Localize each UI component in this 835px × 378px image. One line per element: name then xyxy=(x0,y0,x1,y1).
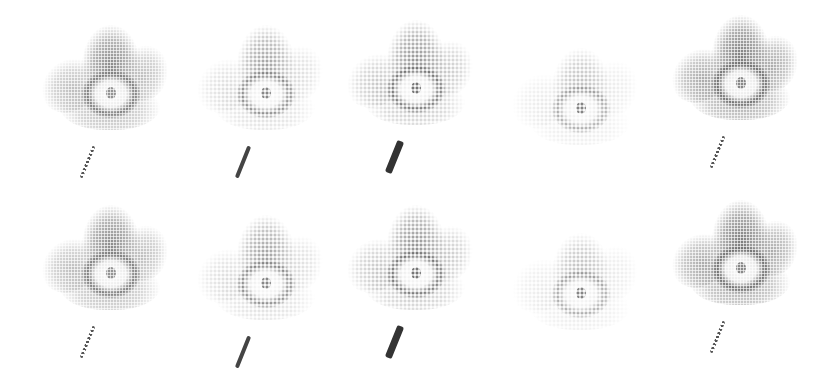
flower-pistil xyxy=(736,262,746,274)
flower-render xyxy=(510,225,670,378)
flower-render xyxy=(670,200,830,370)
flower-point-cloud xyxy=(195,215,355,345)
flower-point-cloud xyxy=(345,20,505,150)
flower-point-cloud xyxy=(670,15,830,145)
flower-pistil xyxy=(736,77,746,89)
flower-pistil xyxy=(106,87,116,99)
flower-pistil xyxy=(411,82,421,94)
flower-point-cloud xyxy=(510,40,670,170)
flower-pistil xyxy=(261,277,271,289)
flower-pistil xyxy=(576,102,586,114)
flower-render xyxy=(195,215,355,378)
flower-point-cloud xyxy=(510,225,670,355)
flower-render xyxy=(40,205,200,375)
flower-render xyxy=(670,15,830,185)
flower-pistil xyxy=(411,267,421,279)
flower-point-cloud xyxy=(670,200,830,330)
flower-pistil xyxy=(106,267,116,279)
flower-render xyxy=(40,25,200,195)
flower-grid xyxy=(0,0,835,378)
flower-render xyxy=(195,25,355,195)
flower-pistil xyxy=(261,87,271,99)
flower-point-cloud xyxy=(40,205,200,335)
flower-pistil xyxy=(576,287,586,299)
flower-point-cloud xyxy=(195,25,355,155)
flower-render xyxy=(510,40,670,210)
flower-render xyxy=(345,20,505,190)
flower-render xyxy=(345,205,505,375)
flower-point-cloud xyxy=(40,25,200,155)
flower-point-cloud xyxy=(345,205,505,335)
